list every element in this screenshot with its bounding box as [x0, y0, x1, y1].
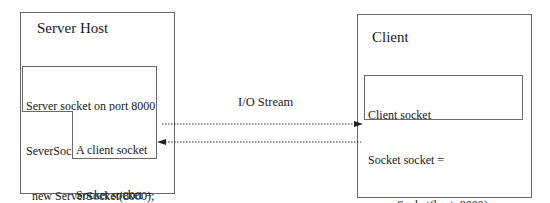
- arrow-client-to-server: [157, 139, 361, 145]
- arrow-server-to-client: [162, 121, 363, 127]
- arrowhead-left-icon: [157, 139, 166, 145]
- arrowhead-right-icon: [354, 121, 363, 127]
- io-stream-arrows: [0, 0, 550, 203]
